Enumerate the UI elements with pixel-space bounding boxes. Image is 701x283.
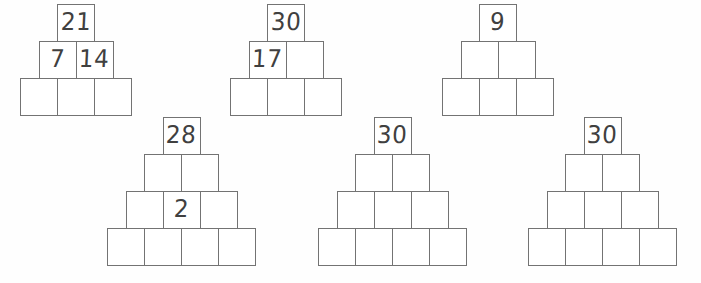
pyramid-4-cell-r4c4-blank[interactable] xyxy=(218,228,256,266)
cell-value: 2 xyxy=(173,197,189,221)
pyramid-1-cell-r3c1-blank[interactable] xyxy=(20,78,58,116)
pyramid-3-row-1: 9 xyxy=(479,4,517,42)
pyramid-5-cell-r4c3-blank[interactable] xyxy=(392,228,430,266)
pyramid-5-row-3 xyxy=(337,191,449,229)
cell-value: 28 xyxy=(166,123,198,147)
pyramid-2-cell-r2c1-value[interactable]: 17 xyxy=(249,41,287,79)
cell-value: 30 xyxy=(377,123,409,147)
pyramid-2-cell-r3c2-blank[interactable] xyxy=(267,78,305,116)
worksheet-canvas: 21714301792823030 xyxy=(0,0,701,283)
pyramid-2-cell-r3c1-blank[interactable] xyxy=(230,78,268,116)
pyramid-4-cell-r3c3-blank[interactable] xyxy=(200,191,238,229)
pyramid-2-cell-r3c3-blank[interactable] xyxy=(304,78,342,116)
pyramid-5-cell-r2c1-blank[interactable] xyxy=(355,154,393,192)
pyramid-6-row-4 xyxy=(528,228,677,266)
pyramid-2: 3017 xyxy=(230,5,342,116)
pyramid-6-cell-r2c2-blank[interactable] xyxy=(602,154,640,192)
pyramid-5-row-1: 30 xyxy=(374,117,412,155)
pyramid-1-row-2: 714 xyxy=(39,41,114,79)
pyramid-3-row-2 xyxy=(461,41,536,79)
pyramid-6-cell-r4c4-blank[interactable] xyxy=(639,228,677,266)
pyramid-3-cell-r2c2-blank[interactable] xyxy=(498,41,536,79)
pyramid-6-cell-r3c3-blank[interactable] xyxy=(621,191,659,229)
pyramid-5-cell-r3c2-blank[interactable] xyxy=(374,191,412,229)
pyramid-4-cell-r3c2-value[interactable]: 2 xyxy=(163,191,201,229)
pyramid-1-cell-r1c1-value[interactable]: 21 xyxy=(57,4,95,42)
pyramid-2-row-1: 30 xyxy=(267,4,305,42)
pyramid-4: 282 xyxy=(107,118,256,266)
pyramid-6-row-1: 30 xyxy=(584,117,622,155)
cell-value: 17 xyxy=(252,47,284,71)
pyramid-6-row-2 xyxy=(565,154,640,192)
pyramid-6: 30 xyxy=(528,118,677,266)
pyramid-4-cell-r2c1-blank[interactable] xyxy=(144,154,182,192)
pyramid-3-cell-r3c2-blank[interactable] xyxy=(479,78,517,116)
pyramid-4-cell-r4c3-blank[interactable] xyxy=(181,228,219,266)
pyramid-1-cell-r2c2-value[interactable]: 14 xyxy=(76,41,114,79)
pyramid-5-cell-r1c1-value[interactable]: 30 xyxy=(374,117,412,155)
pyramid-4-cell-r3c1-blank[interactable] xyxy=(126,191,164,229)
pyramid-3-cell-r3c3-blank[interactable] xyxy=(516,78,554,116)
pyramid-3-cell-r2c1-blank[interactable] xyxy=(461,41,499,79)
cell-value: 30 xyxy=(270,10,302,34)
pyramid-1-cell-r3c2-blank[interactable] xyxy=(57,78,95,116)
pyramid-3: 9 xyxy=(442,5,554,116)
pyramid-6-cell-r4c3-blank[interactable] xyxy=(602,228,640,266)
pyramid-2-row-2: 17 xyxy=(249,41,324,79)
pyramid-4-cell-r4c2-blank[interactable] xyxy=(144,228,182,266)
pyramid-1-cell-r2c1-value[interactable]: 7 xyxy=(39,41,77,79)
pyramid-6-cell-r4c1-blank[interactable] xyxy=(528,228,566,266)
pyramid-3-cell-r3c1-blank[interactable] xyxy=(442,78,480,116)
cell-value: 7 xyxy=(49,47,65,71)
pyramid-1-row-1: 21 xyxy=(57,4,95,42)
pyramid-3-cell-r1c1-value[interactable]: 9 xyxy=(479,4,517,42)
pyramid-5: 30 xyxy=(318,118,467,266)
pyramid-5-row-2 xyxy=(355,154,430,192)
pyramid-5-row-4 xyxy=(318,228,467,266)
pyramid-6-cell-r3c2-blank[interactable] xyxy=(584,191,622,229)
pyramid-2-cell-r1c1-value[interactable]: 30 xyxy=(267,4,305,42)
cell-value: 14 xyxy=(79,47,111,71)
pyramid-5-cell-r3c3-blank[interactable] xyxy=(411,191,449,229)
cell-value: 30 xyxy=(587,123,619,147)
cell-value: 21 xyxy=(60,10,92,34)
pyramid-3-row-3 xyxy=(442,78,554,116)
pyramid-6-cell-r2c1-blank[interactable] xyxy=(565,154,603,192)
pyramid-2-row-3 xyxy=(230,78,342,116)
pyramid-6-cell-r4c2-blank[interactable] xyxy=(565,228,603,266)
pyramid-5-cell-r4c2-blank[interactable] xyxy=(355,228,393,266)
pyramid-2-cell-r2c2-blank[interactable] xyxy=(286,41,324,79)
pyramid-5-cell-r4c1-blank[interactable] xyxy=(318,228,356,266)
pyramid-5-cell-r4c4-blank[interactable] xyxy=(429,228,467,266)
pyramid-6-row-3 xyxy=(547,191,659,229)
pyramid-4-row-1: 28 xyxy=(163,117,201,155)
pyramid-4-cell-r1c1-value[interactable]: 28 xyxy=(163,117,201,155)
pyramid-1: 21714 xyxy=(20,5,132,116)
pyramid-4-row-2 xyxy=(144,154,219,192)
pyramid-1-row-3 xyxy=(20,78,132,116)
pyramid-5-cell-r3c1-blank[interactable] xyxy=(337,191,375,229)
pyramid-4-cell-r4c1-blank[interactable] xyxy=(107,228,145,266)
pyramid-4-row-4 xyxy=(107,228,256,266)
pyramid-5-cell-r2c2-blank[interactable] xyxy=(392,154,430,192)
cell-value: 9 xyxy=(490,10,506,34)
pyramid-4-row-3: 2 xyxy=(126,191,238,229)
pyramid-6-cell-r1c1-value[interactable]: 30 xyxy=(584,117,622,155)
pyramid-1-cell-r3c3-blank[interactable] xyxy=(94,78,132,116)
pyramid-4-cell-r2c2-blank[interactable] xyxy=(181,154,219,192)
pyramid-6-cell-r3c1-blank[interactable] xyxy=(547,191,585,229)
